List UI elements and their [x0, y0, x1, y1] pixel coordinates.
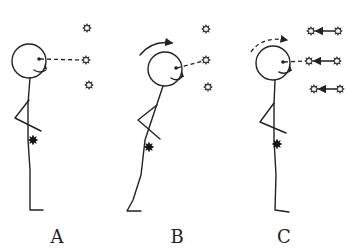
star-icon	[204, 83, 212, 91]
star-icon	[310, 85, 318, 93]
dark-star-icon	[145, 143, 154, 152]
star-icon	[202, 25, 210, 33]
diagram-canvas	[0, 0, 360, 251]
star-origin-icon	[333, 57, 341, 65]
panel-label-b: B	[170, 226, 183, 247]
head-circle	[12, 44, 46, 78]
body-line	[28, 78, 43, 210]
star-icon	[82, 56, 90, 64]
panel-label-c: C	[277, 226, 291, 247]
star-icon	[202, 56, 210, 64]
rotation-arrow-icon	[251, 39, 287, 52]
star-origin-icon	[334, 27, 342, 35]
star-icon	[85, 81, 93, 89]
star-icon	[307, 27, 315, 35]
star-icon	[83, 24, 91, 32]
mouth-line	[34, 70, 46, 72]
gaze-line	[284, 61, 305, 62]
figure-panel-b	[127, 25, 212, 211]
dark-star-icon	[273, 140, 282, 149]
mouth-line	[279, 71, 290, 73]
panel-label-a: A	[51, 226, 64, 247]
star-icon	[305, 57, 313, 65]
figure-panel-a	[12, 24, 93, 210]
star-origin-icon	[336, 85, 344, 93]
head-circle	[256, 46, 290, 80]
dark-star-icon	[29, 136, 38, 145]
arm-line	[138, 105, 160, 139]
rotation-arrow-icon	[140, 43, 172, 56]
arm-line	[260, 103, 286, 133]
figure-panel-c	[251, 27, 344, 212]
